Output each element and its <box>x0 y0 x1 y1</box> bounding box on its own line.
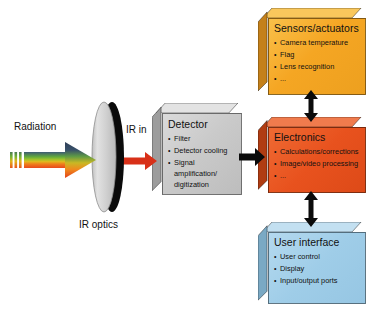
list-item: Flag <box>274 49 361 60</box>
block-sensors-actuators[interactable]: Sensors/actuators Camera temperature Fla… <box>258 8 366 95</box>
list-item: Calculations/corrections <box>274 146 361 157</box>
list-item: Filter <box>168 133 237 144</box>
spectral-stripe <box>10 152 13 168</box>
list-item: Input/output ports <box>274 275 361 286</box>
label-radiation: Radiation <box>14 121 56 133</box>
list-item: Camera temperature <box>274 37 361 48</box>
spectral-stripe <box>19 152 22 168</box>
arrow-electronics-userinterface <box>301 191 321 227</box>
block-title: Detector <box>168 118 237 130</box>
block-item-list: Calculations/corrections Image/video pro… <box>274 146 361 181</box>
diagram-canvas: Sensors/actuators Camera temperature Fla… <box>0 0 373 314</box>
list-item: Image/video processing <box>274 158 361 169</box>
block-title: User interface <box>274 236 361 248</box>
block-electronics[interactable]: Electronics Calculations/corrections Ima… <box>258 117 366 193</box>
block-user-interface[interactable]: User interface User control Display Inpu… <box>258 222 366 304</box>
list-item: ... <box>274 170 361 181</box>
list-item: Display <box>274 263 361 274</box>
list-item: User control <box>274 251 361 262</box>
label-ir-optics: IR optics <box>79 219 118 231</box>
list-item: Lens recognition <box>274 61 361 72</box>
arrow-sensors-electronics <box>301 90 321 122</box>
list-item: Signal amplification/ digitization <box>168 157 237 190</box>
block-title: Sensors/actuators <box>274 22 361 34</box>
arrow-detector-electronics <box>239 148 265 166</box>
block-detector[interactable]: Detector Filter Detector cooling Signal … <box>152 103 242 195</box>
box-left-face <box>152 103 162 195</box>
box-top-face <box>258 8 366 18</box>
box-left-face <box>258 8 268 95</box>
list-item: ... <box>274 73 361 84</box>
box-left-face <box>258 222 268 304</box>
arrow-radiation-spectral <box>10 142 96 180</box>
block-title: Electronics <box>274 131 361 143</box>
block-item-list: Camera temperature Flag Lens recognition… <box>274 37 361 84</box>
block-item-list: Filter Detector cooling Signal amplifica… <box>168 133 237 190</box>
spectral-stripe <box>15 152 18 168</box>
block-item-list: User control Display Input/output ports <box>274 251 361 286</box>
box-top-face <box>152 103 242 113</box>
label-ir-in: IR in <box>126 124 147 136</box>
list-item: Detector cooling <box>168 145 237 156</box>
